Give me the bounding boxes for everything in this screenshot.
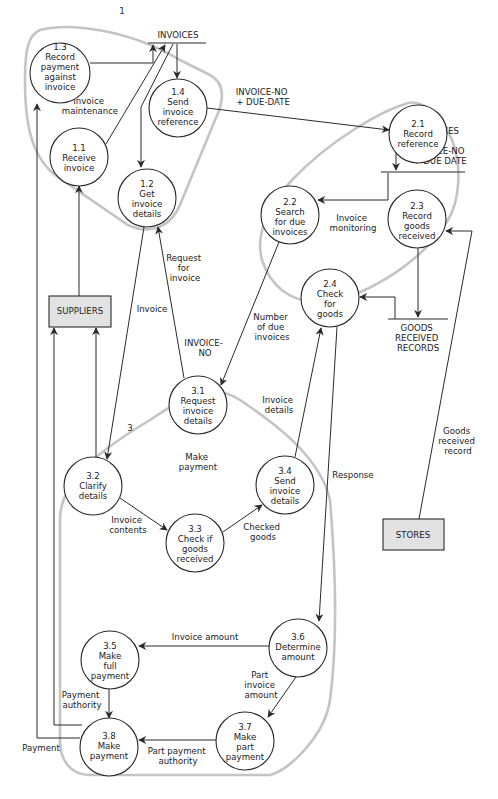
flow-store-to-2-2: [318, 173, 388, 200]
process-3-4: 3.4Sendinvoicedetails: [256, 456, 314, 514]
process-3-5: 3.5Makefullpayment: [81, 631, 139, 689]
flow-1-4-to-2-1: [207, 108, 389, 130]
group-3-boundary: [60, 392, 335, 775]
svg-text:STORES: STORES: [396, 530, 430, 540]
process-3-3: 3.3Check ifgoodsreceived: [166, 514, 224, 572]
group-3-label: Make payment: [179, 452, 218, 472]
process-2-1: 2.1Recordreference: [389, 105, 447, 163]
flow-label-part-payment-authority: Part payment authority: [148, 746, 209, 766]
process-1-3: 1.3Recordpaymentagainstinvoice: [30, 42, 90, 103]
flow-goods-records-to-2-4: [360, 297, 395, 319]
flow-1-3-to-invoices: [90, 45, 153, 63]
svg-text:SUPPLIERS: SUPPLIERS: [57, 306, 103, 316]
external-stores: STORES: [383, 519, 444, 550]
flow-label-invoice-no: INVOICE- NO: [184, 338, 225, 358]
process-3-6: 3.6Determineamount: [269, 619, 327, 677]
external-suppliers: SUPPLIERS: [49, 296, 111, 327]
process-2-4: 2.4Checkforgoods: [301, 269, 359, 327]
flow-label-number-due-invoices: Number of due invoices: [253, 312, 290, 342]
flow-label-invoice: Invoice: [137, 304, 168, 314]
process-1-1: 1.1Receiveinvoice: [50, 128, 108, 186]
flow-label-payment-authority: Payment authority: [62, 690, 102, 710]
process-2-2: 2.2Searchfor dueinvoices: [261, 186, 319, 244]
process-2-3: 2.3Recordgoodsreceived: [388, 190, 446, 248]
flow-label-goods-received-record: Goods received record: [438, 426, 478, 456]
flow-label-response: Response: [332, 470, 373, 480]
flow-3-8-to-1-3: [37, 104, 80, 738]
process-3-2: 3.2Clarifydetails: [64, 457, 122, 515]
store-invoices: INVOICES: [148, 30, 206, 43]
svg-text:INVOICES: INVOICES: [158, 30, 199, 40]
group-2-label: Invoice monitoring: [330, 213, 377, 233]
svg-text:GOODS RECEIVED REC: GOODS RECEIVED RECORDS: [395, 323, 441, 353]
flow-stores-to-2-3: [419, 231, 472, 519]
data-flow-diagram: 1 Invoice maintenance 2 Invoice monitori…: [0, 0, 498, 799]
flow-3-4-to-2-4: [295, 328, 321, 457]
flow-label-part-invoice-amount: Part invoice amount: [244, 670, 278, 700]
flow-label-checked-goods: Checked goods: [243, 522, 283, 542]
flow-1-2-to-3-2: [107, 227, 144, 459]
flow-3-1-to-1-2: [158, 227, 184, 378]
flow-label-request-for-invoice: Request for invoice: [166, 253, 204, 283]
process-3-8: 3.8Makepayment: [80, 718, 138, 776]
group-3-number: 3: [127, 423, 132, 433]
process-3-1: 3.1Requestinvoicedetails: [169, 376, 227, 434]
process-1-2: 1.2Getinvoicedetails: [118, 169, 176, 227]
flow-label-invoice-amount: Invoice amount: [172, 632, 239, 642]
flow-label-payment: Payment: [22, 743, 60, 753]
store-goods-received-records: GOODS RECEIVED RECORDS: [388, 319, 448, 353]
flow-label-invoice-contents: Invoice contents: [109, 515, 147, 535]
process-1-4: 1.4Sendinvoicereference: [149, 79, 207, 137]
flow-label-invoice-details: Invoice details: [262, 395, 295, 415]
process-3-7: 3.7Makepartpayment: [216, 712, 274, 770]
flow-3-8-to-suppliers: [54, 328, 82, 725]
group-1-number: 1: [119, 6, 124, 16]
flow-label-invoice-no-due-date: INVOICE-NO + DUE-DATE: [236, 87, 290, 107]
